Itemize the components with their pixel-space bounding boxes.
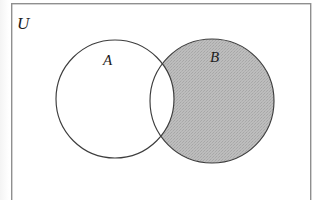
venn-diagram-canvas (0, 0, 322, 200)
set-a-label: A (103, 53, 112, 68)
universal-set-label: U (17, 15, 29, 32)
venn-diagram-figure: U A B (0, 0, 322, 200)
set-b-label: B (210, 50, 219, 65)
